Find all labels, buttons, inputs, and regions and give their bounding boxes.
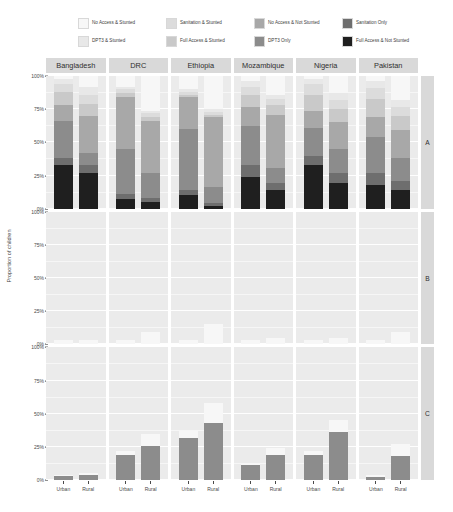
bar-segment[interactable]	[266, 99, 285, 106]
bar-segment[interactable]	[391, 332, 410, 344]
bar-segment[interactable]	[329, 432, 348, 480]
stacked-bar[interactable]	[241, 76, 260, 209]
bar-segment[interactable]	[366, 185, 385, 209]
bar-segment[interactable]	[141, 446, 160, 480]
bar-segment[interactable]	[366, 88, 385, 99]
stacked-bar[interactable]	[241, 212, 260, 345]
bar-segment[interactable]	[79, 165, 98, 173]
stacked-bar[interactable]	[79, 347, 98, 480]
bar-segment[interactable]	[304, 165, 323, 209]
bar-segment[interactable]	[241, 95, 260, 107]
stacked-bar[interactable]	[391, 347, 410, 480]
stacked-bar[interactable]	[204, 76, 223, 209]
bar-segment[interactable]	[329, 100, 348, 109]
bar-segment[interactable]	[304, 455, 323, 480]
bar-segment[interactable]	[54, 84, 73, 92]
bar-segment[interactable]	[241, 126, 260, 164]
stacked-bar[interactable]	[304, 347, 323, 480]
bar-segment[interactable]	[116, 199, 135, 208]
bar-segment[interactable]	[54, 340, 73, 344]
bar-segment[interactable]	[204, 187, 223, 203]
legend-item[interactable]: No Access & Stunted	[78, 14, 164, 32]
bar-segment[interactable]	[79, 76, 98, 87]
bar-segment[interactable]	[304, 128, 323, 156]
legend-item[interactable]: Full Access & Stunted	[166, 32, 252, 50]
bar-segment[interactable]	[241, 465, 260, 480]
stacked-bar[interactable]	[266, 76, 285, 209]
stacked-bar[interactable]	[366, 212, 385, 345]
bar-segment[interactable]	[241, 340, 260, 344]
bar-segment[interactable]	[329, 76, 348, 93]
bar-segment[interactable]	[329, 420, 348, 432]
bar-segment[interactable]	[116, 97, 135, 149]
legend-item[interactable]: Sanitation Only	[342, 14, 428, 32]
bar-segment[interactable]	[79, 87, 98, 95]
bar-segment[interactable]	[54, 105, 73, 121]
bar-segment[interactable]	[304, 95, 323, 111]
legend-item[interactable]: Full Access & Not Stunted	[342, 32, 428, 50]
bar-segment[interactable]	[366, 117, 385, 137]
bar-segment[interactable]	[141, 202, 160, 209]
stacked-bar[interactable]	[304, 76, 323, 209]
stacked-bar[interactable]	[304, 212, 323, 345]
bar-segment[interactable]	[141, 76, 160, 110]
bar-segment[interactable]	[391, 130, 410, 158]
stacked-bar[interactable]	[241, 347, 260, 480]
bar-segment[interactable]	[79, 104, 98, 116]
bar-segment[interactable]	[79, 475, 98, 480]
bar-segment[interactable]	[329, 173, 348, 184]
bar-segment[interactable]	[179, 340, 198, 344]
bar-segment[interactable]	[329, 183, 348, 208]
bar-segment[interactable]	[79, 95, 98, 104]
stacked-bar[interactable]	[54, 212, 73, 345]
stacked-bar[interactable]	[179, 212, 198, 345]
bar-segment[interactable]	[366, 477, 385, 480]
stacked-bar[interactable]	[391, 76, 410, 209]
bar-segment[interactable]	[141, 434, 160, 446]
bar-segment[interactable]	[116, 76, 135, 87]
stacked-bar[interactable]	[179, 347, 198, 480]
bar-segment[interactable]	[54, 158, 73, 165]
bar-segment[interactable]	[391, 107, 410, 116]
stacked-bar[interactable]	[391, 212, 410, 345]
bar-segment[interactable]	[54, 121, 73, 158]
stacked-bar[interactable]	[204, 347, 223, 480]
bar-segment[interactable]	[116, 455, 135, 480]
bar-segment[interactable]	[141, 121, 160, 173]
bar-segment[interactable]	[266, 168, 285, 184]
stacked-bar[interactable]	[116, 76, 135, 209]
stacked-bar[interactable]	[116, 347, 135, 480]
bar-segment[interactable]	[116, 340, 135, 344]
stacked-bar[interactable]	[179, 76, 198, 209]
bar-segment[interactable]	[204, 117, 223, 187]
stacked-bar[interactable]	[116, 212, 135, 345]
stacked-bar[interactable]	[54, 76, 73, 209]
bar-segment[interactable]	[329, 149, 348, 173]
bar-segment[interactable]	[141, 173, 160, 198]
bar-segment[interactable]	[391, 116, 410, 131]
bar-segment[interactable]	[179, 438, 198, 480]
bar-segment[interactable]	[266, 115, 285, 168]
legend-item[interactable]: No Access & Not Stunted	[254, 14, 340, 32]
bar-segment[interactable]	[116, 149, 135, 194]
bar-segment[interactable]	[329, 122, 348, 149]
bar-segment[interactable]	[266, 190, 285, 209]
bar-segment[interactable]	[179, 431, 198, 438]
bar-segment[interactable]	[304, 156, 323, 165]
bar-segment[interactable]	[266, 76, 285, 95]
stacked-bar[interactable]	[141, 76, 160, 209]
stacked-bar[interactable]	[366, 76, 385, 209]
bar-segment[interactable]	[54, 476, 73, 480]
bar-segment[interactable]	[366, 173, 385, 185]
bar-segment[interactable]	[204, 76, 223, 109]
stacked-bar[interactable]	[266, 347, 285, 480]
bar-segment[interactable]	[141, 332, 160, 344]
stacked-bar[interactable]	[329, 347, 348, 480]
bar-segment[interactable]	[204, 403, 223, 423]
bar-segment[interactable]	[391, 76, 410, 100]
bar-segment[interactable]	[79, 173, 98, 209]
stacked-bar[interactable]	[266, 212, 285, 345]
bar-segment[interactable]	[391, 100, 410, 107]
bar-segment[interactable]	[366, 340, 385, 344]
bar-segment[interactable]	[304, 84, 323, 95]
